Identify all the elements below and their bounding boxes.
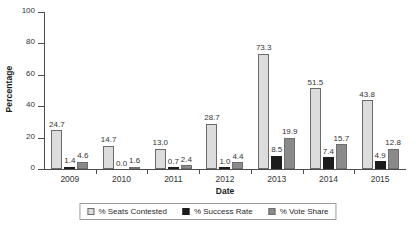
bar-value-label: 8.5 bbox=[271, 145, 282, 154]
bar-group: 28.71.04.42012 bbox=[199, 11, 251, 169]
bar[interactable] bbox=[310, 88, 321, 169]
bar-value-label: 0.0 bbox=[116, 159, 127, 168]
bar[interactable] bbox=[51, 130, 62, 169]
bar-group: 13.00.72.42011 bbox=[147, 11, 199, 169]
bar-value-label: 13.0 bbox=[152, 138, 168, 147]
y-axis-tick-label: 80 bbox=[26, 37, 35, 46]
bar-value-label: 43.8 bbox=[359, 90, 375, 99]
bar[interactable] bbox=[181, 165, 192, 169]
bar[interactable] bbox=[232, 162, 243, 169]
bar-group-bars: 51.57.415.7 bbox=[303, 11, 355, 169]
bar-value-label: 19.9 bbox=[282, 127, 298, 136]
bar-group: 24.71.44.62009 bbox=[44, 11, 96, 169]
bar[interactable] bbox=[375, 161, 386, 169]
bar-value-label: 73.3 bbox=[256, 43, 272, 52]
legend-swatch-icon bbox=[87, 208, 94, 215]
legend-item[interactable]: % Seats Contested bbox=[87, 207, 166, 216]
y-axis-tick-label: 60 bbox=[26, 69, 35, 78]
bar-value-label: 4.6 bbox=[77, 151, 88, 160]
legend-item[interactable]: % Vote Share bbox=[269, 207, 329, 216]
y-axis-tick-label: 20 bbox=[26, 132, 35, 141]
x-axis-tick bbox=[251, 170, 252, 174]
bar-group: 14.70.01.62010 bbox=[96, 11, 148, 169]
bar[interactable] bbox=[388, 149, 399, 169]
bar-value-label: 28.7 bbox=[204, 113, 220, 122]
bar-group-bars: 14.70.01.6 bbox=[96, 11, 148, 169]
x-axis-category-label: 2010 bbox=[112, 174, 131, 184]
plot-area: 02040608010024.71.44.6200914.70.01.62010… bbox=[44, 12, 406, 170]
bar-group: 43.84.912.82015 bbox=[354, 11, 406, 169]
bar[interactable] bbox=[323, 157, 334, 169]
y-axis-tick-label: 100 bbox=[22, 6, 35, 15]
x-axis-tick bbox=[303, 170, 304, 174]
x-axis-tick bbox=[147, 170, 148, 174]
x-axis-category-label: 2013 bbox=[267, 174, 286, 184]
bar[interactable] bbox=[129, 167, 140, 170]
bar-group-bars: 28.71.04.4 bbox=[199, 11, 251, 169]
bar[interactable] bbox=[336, 144, 347, 169]
bar[interactable] bbox=[103, 146, 114, 169]
bar[interactable] bbox=[168, 167, 179, 169]
bar[interactable] bbox=[155, 149, 166, 169]
y-axis-tick-label: 0 bbox=[31, 163, 35, 172]
x-axis-tick bbox=[199, 170, 200, 174]
bar-group: 51.57.415.72014 bbox=[303, 11, 355, 169]
bar-value-label: 14.7 bbox=[101, 135, 117, 144]
y-axis-title: Percentage bbox=[2, 0, 16, 178]
legend-swatch-icon bbox=[269, 208, 276, 215]
x-axis-category-label: 2012 bbox=[216, 174, 235, 184]
bar[interactable] bbox=[77, 162, 88, 169]
x-axis-tick bbox=[96, 170, 97, 174]
bar-value-label: 24.7 bbox=[49, 120, 65, 129]
bar[interactable] bbox=[284, 138, 295, 169]
bar-value-label: 7.4 bbox=[323, 147, 334, 156]
y-axis-title-text: Percentage bbox=[4, 66, 14, 113]
x-axis-tick bbox=[354, 170, 355, 174]
bar-value-label: 4.9 bbox=[375, 151, 386, 160]
bar-group-bars: 43.84.912.8 bbox=[354, 11, 406, 169]
bar-value-label: 12.8 bbox=[385, 138, 401, 147]
bar[interactable] bbox=[271, 156, 282, 169]
legend-item-label: % Vote Share bbox=[280, 207, 329, 216]
bar-value-label: 51.5 bbox=[308, 78, 324, 87]
bar-value-label: 15.7 bbox=[334, 134, 350, 143]
legend-item[interactable]: % Success Rate bbox=[183, 207, 253, 216]
bar-chart-figure: Percentage 02040608010024.71.44.6200914.… bbox=[0, 0, 416, 227]
bar[interactable] bbox=[362, 100, 373, 169]
bar-group-bars: 13.00.72.4 bbox=[147, 11, 199, 169]
bar[interactable] bbox=[64, 167, 75, 169]
x-axis-category-label: 2011 bbox=[164, 174, 182, 184]
bar-value-label: 1.4 bbox=[64, 156, 75, 165]
x-axis-title: Date bbox=[44, 186, 406, 196]
legend-swatch-icon bbox=[183, 208, 190, 215]
chart-legend: % Seats Contested% Success Rate% Vote Sh… bbox=[79, 203, 336, 220]
x-axis-category-label: 2015 bbox=[371, 174, 390, 184]
bar[interactable] bbox=[219, 167, 230, 169]
bar-value-label: 0.7 bbox=[168, 157, 179, 166]
bar-value-label: 1.6 bbox=[129, 156, 140, 165]
x-axis-category-label: 2014 bbox=[319, 174, 338, 184]
bar[interactable] bbox=[206, 124, 217, 169]
y-axis-tick-label: 40 bbox=[26, 100, 35, 109]
bar-value-label: 2.4 bbox=[181, 155, 192, 164]
bar-group-bars: 73.38.519.9 bbox=[251, 11, 303, 169]
legend-item-label: % Seats Contested bbox=[98, 207, 166, 216]
y-axis-tick: 0 bbox=[38, 169, 44, 170]
bar-group: 73.38.519.92013 bbox=[251, 11, 303, 169]
bar[interactable] bbox=[258, 54, 269, 169]
x-axis-category-label: 2009 bbox=[60, 174, 79, 184]
bar-group-bars: 24.71.44.6 bbox=[44, 11, 96, 169]
bar-value-label: 4.4 bbox=[232, 152, 243, 161]
legend-item-label: % Success Rate bbox=[194, 207, 253, 216]
bar-value-label: 1.0 bbox=[219, 157, 230, 166]
